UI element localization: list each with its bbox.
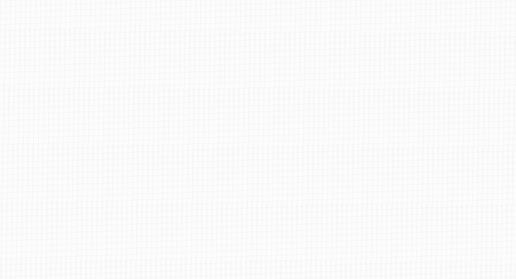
legend-label: Thread router — [181, 254, 244, 266]
node-end-device-e9[interactable]: E — [214, 202, 242, 230]
node-end-device-e6[interactable]: E — [62, 162, 90, 190]
node-leader-l1[interactable]: L — [276, 103, 306, 133]
node-label: R — [210, 82, 220, 97]
router-box-icon — [342, 64, 378, 123]
diagram-canvas: EEEEEEEEEERRRRRL Border router Cloud Clo… — [0, 0, 516, 279]
server-tower-icon — [464, 40, 492, 88]
node-thread-router-r1[interactable]: R — [59, 102, 91, 134]
leader-to-border-router-link — [309, 110, 338, 117]
legend-chip-leader-icon: C — [296, 252, 313, 269]
node-label: L — [287, 111, 296, 125]
legend-item-link-arrow: Thread links — [379, 251, 485, 269]
legend: EEnd deviceRThread routerCLeaderThread l… — [0, 247, 516, 273]
legend-item-end-device: EEnd device — [62, 251, 136, 269]
smartphone-label: Smartphone — [400, 205, 500, 217]
legend-chip-thread-router-icon: R — [158, 252, 175, 269]
node-label: E — [244, 39, 252, 52]
node-label: E — [106, 26, 114, 39]
node-end-device-e10[interactable]: E — [277, 166, 305, 194]
node-label: E — [72, 169, 80, 182]
legend-label: Leader — [319, 254, 351, 266]
node-end-device-e1[interactable]: E — [31, 56, 59, 84]
legend-item-leader: CLeader — [296, 251, 351, 269]
cloud-label: Cloud — [440, 89, 502, 101]
node-thread-router-r4[interactable]: R — [134, 158, 166, 190]
node-end-device-e3[interactable]: E — [183, 27, 211, 55]
smartphone-icon — [427, 128, 470, 201]
node-label: E — [36, 141, 44, 154]
node-end-device-e4[interactable]: E — [234, 32, 262, 60]
node-label: E — [287, 173, 295, 186]
node-label: E — [108, 209, 116, 222]
node-label: E — [224, 209, 232, 222]
node-label: R — [145, 166, 155, 181]
legend-chip-end-device-icon: E — [62, 252, 79, 269]
node-label: E — [176, 212, 184, 225]
node-label: R — [233, 158, 243, 173]
node-label: E — [193, 34, 201, 47]
node-thread-router-r3[interactable]: R — [199, 74, 231, 106]
node-end-device-e5[interactable]: E — [26, 134, 54, 162]
thread-link-arrow-icon — [379, 253, 421, 267]
cloud-link-label: Cloud — [458, 119, 510, 131]
border-router-to-cloud-link — [378, 72, 412, 106]
node-thread-router-r2[interactable]: R — [121, 72, 153, 104]
node-label: E — [41, 63, 49, 76]
legend-label: End device — [85, 254, 136, 266]
node-thread-router-r5[interactable]: R — [222, 150, 254, 182]
node-label: R — [132, 80, 142, 95]
border-router-label: Border router — [332, 128, 388, 152]
legend-item-thread-router: RThread router — [158, 251, 244, 269]
legend-label: Thread links — [427, 254, 485, 266]
node-label: R — [70, 110, 80, 125]
node-end-device-e2[interactable]: E — [96, 19, 124, 47]
node-end-device-e7[interactable]: E — [98, 202, 126, 230]
node-end-device-e8[interactable]: E — [166, 205, 194, 233]
